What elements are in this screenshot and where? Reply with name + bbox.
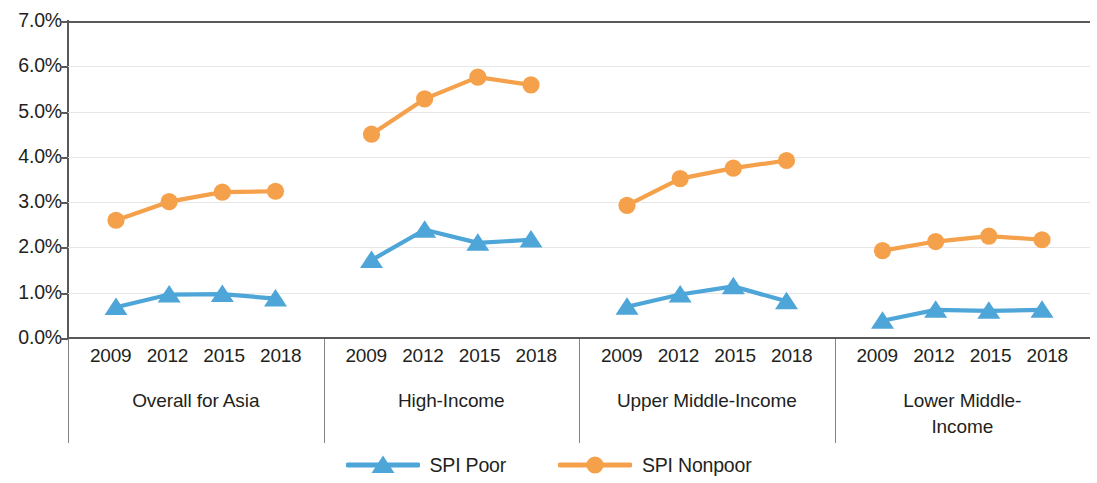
data-point-marker-circle	[725, 160, 742, 177]
y-axis-tick-label: 2.0%	[0, 237, 62, 257]
series-line	[116, 294, 276, 307]
data-point-marker-circle	[469, 69, 486, 86]
data-point-marker-circle	[522, 76, 539, 93]
panel-title-line: Overall for Asia	[68, 388, 324, 414]
series-group	[363, 69, 540, 143]
panel-title: High-Income	[324, 388, 580, 414]
x-axis-tick-label: 2018	[260, 345, 301, 367]
data-point-marker-circle	[618, 197, 635, 214]
data-point-marker-circle	[363, 126, 380, 143]
y-axis-tick-mark	[60, 293, 68, 295]
series-group	[360, 220, 543, 268]
panel-title-line: Income	[835, 414, 1091, 440]
series-group	[871, 300, 1054, 328]
x-axis-tick-label: 2018	[771, 345, 812, 367]
y-axis-tick-mark	[60, 157, 68, 159]
series-group	[618, 152, 795, 214]
series-line	[883, 236, 1043, 250]
x-axis-tick-label: 2009	[857, 345, 898, 367]
data-point-marker-circle	[672, 170, 689, 187]
series-group	[105, 284, 288, 315]
y-axis: 7.0%6.0%5.0%4.0%3.0%2.0%1.0%0.0%	[0, 0, 62, 483]
data-point-marker-circle	[778, 152, 795, 169]
data-point-marker-circle	[107, 212, 124, 229]
x-axis-tick-label: 2012	[402, 345, 443, 367]
series-line	[372, 230, 532, 260]
y-axis-tick-mark	[60, 247, 68, 249]
x-axis-tick-label: 2018	[516, 345, 557, 367]
y-axis-tick-label: 1.0%	[0, 283, 62, 303]
y-axis-tick-label: 0.0%	[0, 328, 62, 348]
data-point-marker-circle	[980, 228, 997, 245]
series-group	[616, 277, 799, 315]
x-axis-tick-label: 2015	[970, 345, 1011, 367]
y-axis-tick-mark	[60, 66, 68, 68]
legend-item[interactable]: SPI Nonpoor	[558, 452, 751, 478]
y-axis-tick-label: 7.0%	[0, 11, 62, 31]
y-axis-tick-mark	[60, 21, 68, 23]
data-point-marker-circle	[267, 183, 284, 200]
y-axis-tick-label: 6.0%	[0, 56, 62, 76]
data-point-marker-circle	[874, 242, 891, 259]
panel-title-line: High-Income	[324, 388, 580, 414]
panel-title-line: Upper Middle-Income	[579, 388, 835, 414]
panel-title: Upper Middle-Income	[579, 388, 835, 414]
spi-multi-panel-line-chart: 7.0%6.0%5.0%4.0%3.0%2.0%1.0%0.0% 2009201…	[0, 0, 1097, 483]
x-axis-tick-label: 2015	[714, 345, 755, 367]
data-point-marker-circle	[161, 193, 178, 210]
x-axis-tick-label: 2018	[1027, 345, 1068, 367]
legend-label: SPI Nonpoor	[642, 454, 751, 477]
panel-title-line: Lower Middle-	[835, 388, 1091, 414]
series-group	[874, 228, 1051, 260]
series-line	[372, 77, 532, 134]
data-point-marker-circle	[416, 90, 433, 107]
series-layer	[68, 21, 1090, 338]
panel-year-labels: 2009201220152018	[346, 345, 558, 367]
data-point-marker-circle	[927, 233, 944, 250]
series-line	[116, 191, 276, 220]
x-axis-tick-label: 2015	[203, 345, 244, 367]
y-axis-tick-mark	[60, 112, 68, 114]
x-axis-tick-label: 2009	[346, 345, 387, 367]
legend-marker-circle-icon	[558, 452, 632, 478]
panel-year-labels: 2009201220152018	[601, 345, 813, 367]
panel-year-labels: 2009201220152018	[857, 345, 1069, 367]
y-axis-tick-label: 4.0%	[0, 147, 62, 167]
data-point-marker-circle	[586, 456, 603, 473]
series-line	[627, 160, 787, 205]
x-axis-tick-label: 2009	[601, 345, 642, 367]
series-group	[107, 183, 284, 229]
panel-title: Overall for Asia	[68, 388, 324, 414]
x-axis-tick-label: 2009	[90, 345, 131, 367]
x-axis-tick-label: 2012	[147, 345, 188, 367]
series-line	[883, 310, 1043, 321]
series-line	[627, 286, 787, 306]
x-axis-tick-label: 2012	[913, 345, 954, 367]
plot-area	[68, 21, 1090, 338]
y-axis-tick-label: 5.0%	[0, 102, 62, 122]
data-point-marker-circle	[214, 184, 231, 201]
panel-title: Lower Middle-Income	[835, 388, 1091, 440]
data-point-marker-triangle	[413, 220, 436, 238]
chart-legend: SPI PoorSPI Nonpoor	[0, 452, 1097, 478]
panel-year-labels: 2009201220152018	[90, 345, 302, 367]
data-point-marker-circle	[1033, 231, 1050, 248]
y-axis-tick-mark	[60, 202, 68, 204]
legend-label: SPI Poor	[430, 454, 506, 477]
y-axis-tick-mark	[60, 338, 68, 340]
x-axis-tick-label: 2012	[658, 345, 699, 367]
legend-item[interactable]: SPI Poor	[346, 452, 506, 478]
legend-marker-triangle-icon	[346, 452, 420, 478]
y-axis-tick-label: 3.0%	[0, 192, 62, 212]
x-axis-tick-label: 2015	[459, 345, 500, 367]
